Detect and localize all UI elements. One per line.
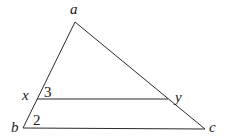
segment-bc: [23, 128, 205, 129]
label-b: b: [11, 119, 19, 135]
label-c: c: [209, 119, 216, 135]
angle-label-3: 3: [44, 84, 52, 100]
segment-ac: [75, 22, 205, 129]
diagram-canvas: a b c x y 3 2: [0, 0, 227, 138]
angle-label-2: 2: [33, 112, 41, 128]
label-x: x: [21, 87, 29, 103]
segment-ab: [23, 22, 75, 128]
label-y: y: [173, 89, 182, 105]
label-a: a: [70, 1, 78, 17]
triangle-diagram: a b c x y 3 2: [0, 0, 227, 138]
